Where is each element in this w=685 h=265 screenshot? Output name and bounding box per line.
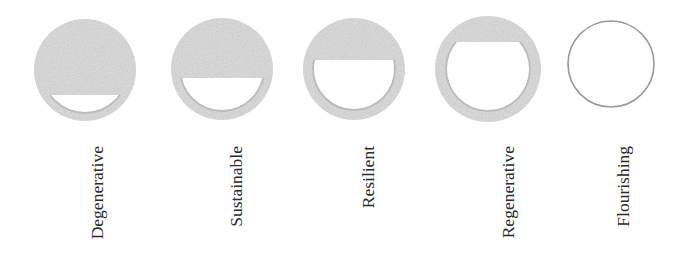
flourishing-circle-icon	[0, 0, 685, 140]
stage-label-flourishing: Flourishing	[614, 146, 632, 227]
stage-flourishing: Flourishing	[0, 0, 685, 265]
regenerative-development-diagram: Degenerative Sustainable Resilient Regen…	[0, 0, 685, 265]
